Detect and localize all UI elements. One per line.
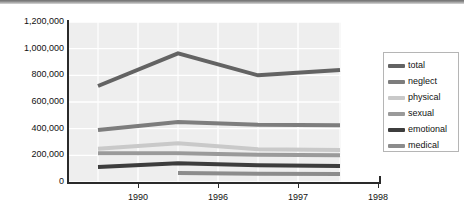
legend-item-emotional[interactable]: emotional bbox=[388, 122, 458, 137]
x-axis-tick bbox=[218, 182, 219, 188]
y-axis-tick-label: 1,000,000 bbox=[0, 44, 64, 53]
y-axis-tick-labels: 0200,000400,000600,000800,0001,000,0001,… bbox=[0, 0, 64, 217]
chart-legend: totalneglectphysicalsexualemotionalmedic… bbox=[383, 52, 459, 152]
x-axis-tick bbox=[138, 182, 139, 188]
x-axis-tick bbox=[298, 182, 299, 188]
x-axis-tick-label: 1998 bbox=[355, 192, 401, 202]
y-axis-line bbox=[67, 20, 69, 184]
legend-swatch-icon bbox=[388, 144, 405, 148]
y-axis-tick-label: 800,000 bbox=[0, 70, 64, 79]
legend-item-medical[interactable]: medical bbox=[388, 138, 458, 153]
legend-item-neglect[interactable]: neglect bbox=[388, 74, 458, 89]
legend-item-label: medical bbox=[408, 141, 439, 150]
plot-svg bbox=[69, 22, 341, 182]
series-line-emotional bbox=[98, 163, 340, 167]
legend-item-sexual[interactable]: sexual bbox=[388, 106, 458, 121]
y-axis-tick-label: 600,000 bbox=[0, 97, 64, 106]
y-axis-tick-label: 1,200,000 bbox=[0, 17, 64, 26]
y-axis-tick-label: 0 bbox=[0, 177, 64, 186]
series-line-medical bbox=[178, 173, 340, 174]
series-line-total bbox=[98, 53, 340, 86]
legend-swatch-icon bbox=[388, 64, 405, 68]
x-axis-line bbox=[67, 182, 381, 184]
legend-swatch-icon bbox=[388, 112, 405, 116]
series-line-physical bbox=[98, 143, 340, 150]
top-divider-band bbox=[0, 0, 464, 4]
legend-item-label: physical bbox=[408, 93, 441, 102]
legend-swatch-icon bbox=[388, 80, 405, 84]
legend-swatch-icon bbox=[388, 128, 405, 132]
legend-item-physical[interactable]: physical bbox=[388, 90, 458, 105]
legend-item-label: sexual bbox=[408, 109, 434, 118]
x-axis-tick-label: 1990 bbox=[115, 192, 161, 202]
legend-item-label: total bbox=[408, 61, 425, 70]
y-axis-tick-label: 400,000 bbox=[0, 124, 64, 133]
y-axis-tick-label: 200,000 bbox=[0, 150, 64, 159]
legend-item-label: neglect bbox=[408, 77, 437, 86]
x-axis-tick-label: 1996 bbox=[195, 192, 241, 202]
legend-item-total[interactable]: total bbox=[388, 58, 458, 73]
series-line-sexual bbox=[98, 153, 340, 155]
legend-item-label: emotional bbox=[408, 125, 447, 134]
x-axis-tick bbox=[378, 182, 379, 188]
x-axis-tick-label: 1997 bbox=[275, 192, 321, 202]
chart-screenshot: 0200,000400,000600,000800,0001,000,0001,… bbox=[0, 0, 464, 217]
plot-area bbox=[69, 22, 341, 182]
x-axis-end-tick bbox=[379, 176, 381, 184]
legend-swatch-icon bbox=[388, 96, 405, 100]
